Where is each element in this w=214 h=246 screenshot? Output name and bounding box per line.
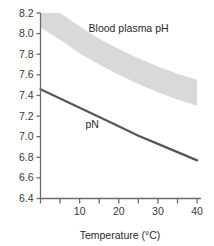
pn-label: pN <box>85 118 98 130</box>
y-axis-tick-label: 7.6 <box>19 68 34 80</box>
x-axis-tick-label: 20 <box>113 205 125 217</box>
y-axis-tick-label: 7.0 <box>19 130 34 142</box>
y-axis-tick-label: 6.4 <box>19 192 34 204</box>
y-axis-tick-label: 7.4 <box>19 89 34 101</box>
y-axis-tick-label: 6.8 <box>19 151 34 163</box>
x-axis-tick-label: 30 <box>152 205 164 217</box>
y-axis-tick-label: 7.8 <box>19 48 34 60</box>
y-axis-tick-label: 8.2 <box>19 7 34 19</box>
ph-vs-temperature-chart: 6.46.66.87.07.27.47.67.88.08.2 10203040 … <box>0 0 214 246</box>
y-axis-tick-label: 6.6 <box>19 171 34 183</box>
chart-figure: 6.46.66.87.07.27.47.67.88.08.2 10203040 … <box>0 0 214 246</box>
x-axis-title: Temperature (°C) <box>80 229 161 241</box>
y-axis-tick-label: 8.0 <box>19 27 34 39</box>
x-axis-tick-label: 40 <box>191 205 203 217</box>
y-axis-tick-label: 7.2 <box>19 110 34 122</box>
blood-plasma-ph-label: Blood plasma pH <box>89 22 169 34</box>
x-axis-tick-label: 10 <box>74 205 86 217</box>
